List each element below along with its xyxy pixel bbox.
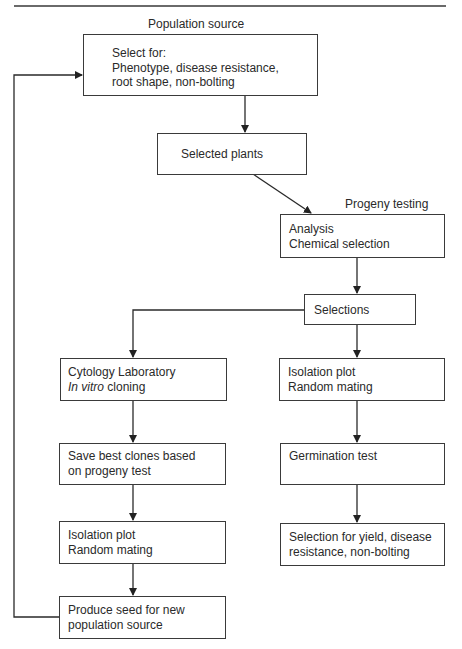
box-text: Random mating	[68, 543, 225, 558]
box-text: Isolation plot	[68, 528, 225, 543]
box-text: In vitro cloning	[68, 380, 226, 395]
box-text: population source	[68, 618, 225, 633]
selection-yield-box: Selection for yield, disease resistance,…	[280, 523, 445, 566]
box-text: on progeny test	[68, 464, 225, 479]
box-text: Phenotype, disease resistance,	[112, 61, 317, 76]
selected-plants-box: Selected plants	[157, 133, 307, 175]
box-text: Selections	[314, 303, 415, 318]
progeny-testing-label: Progeny testing	[345, 197, 428, 211]
box-text: Chemical selection	[289, 237, 444, 252]
box-text: Isolation plot	[288, 365, 444, 380]
germination-test-box: Germination test	[280, 443, 445, 485]
box-text: Germination test	[289, 449, 444, 464]
box-text: Produce seed for new	[68, 603, 225, 618]
box-text: root shape, non-bolting	[112, 75, 317, 90]
italic-text: In vitro	[68, 380, 104, 394]
isolation-plot-left-box: Isolation plot Random mating	[59, 521, 226, 564]
box-text: Selected plants	[181, 147, 306, 162]
cytology-box: Cytology Laboratory In vitro cloning	[60, 358, 227, 401]
selections-box: Selections	[304, 294, 416, 325]
analysis-box: Analysis Chemical selection	[280, 214, 445, 258]
box-text: resistance, non-bolting	[289, 545, 444, 560]
box-text: Selection for yield, disease	[289, 530, 444, 545]
box-text: Analysis	[289, 222, 444, 237]
produce-seed-box: Produce seed for new population source	[59, 596, 226, 639]
box-text: cloning	[104, 380, 145, 394]
isolation-plot-right-box: Isolation plot Random mating	[279, 358, 445, 401]
population-source-label: Population source	[148, 17, 244, 31]
select-for-box: Select for: Phenotype, disease resistanc…	[83, 34, 318, 96]
save-clones-box: Save best clones based on progeny test	[59, 443, 226, 485]
box-text: Cytology Laboratory	[68, 365, 226, 380]
box-text: Random mating	[288, 380, 444, 395]
box-text: Save best clones based	[68, 449, 225, 464]
box-text: Select for:	[112, 46, 317, 61]
